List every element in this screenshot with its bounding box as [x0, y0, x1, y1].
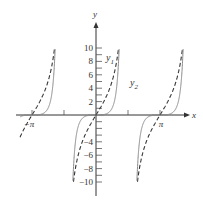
y-tick-label: −10 [79, 177, 94, 187]
curve-y2 [20, 49, 55, 117]
y-tick-label: 2 [89, 97, 94, 107]
x-tick-label-neg-pi: −π [24, 119, 35, 129]
plot-area: 108642−4−6−8−10−ππxyy1y2 [0, 0, 203, 203]
labels: 108642−4−6−8−10−ππxyy1y2 [24, 9, 196, 187]
y-tick-label: −6 [83, 150, 93, 160]
x-tick-label-pi: π [159, 119, 164, 129]
y-tick-label: 6 [89, 70, 94, 80]
x-axis-arrow-icon [184, 113, 190, 118]
y-axis-arrow-icon [94, 22, 99, 28]
x-axis-label: x [191, 110, 196, 120]
y-tick-label: −4 [83, 137, 93, 147]
series-label-y1: y1 [105, 52, 114, 66]
chart: 108642−4−6−8−10−ππxyy1y2 [0, 0, 203, 203]
series-label-y2: y2 [129, 77, 138, 91]
y-tick-label: 8 [89, 56, 94, 66]
y-tick-label: 10 [84, 43, 94, 53]
y-tick-label: 4 [89, 83, 94, 93]
y-tick-label: −8 [83, 164, 93, 174]
y-axis-label: y [92, 9, 97, 19]
